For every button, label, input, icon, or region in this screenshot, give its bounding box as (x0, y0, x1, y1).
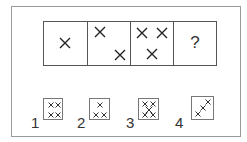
cross-icon (101, 112, 107, 118)
cross-icon (55, 102, 61, 108)
sequence-cell-1 (44, 22, 87, 65)
cross-icon (48, 102, 54, 108)
cross-icon (93, 112, 99, 118)
cross-icon (55, 112, 61, 118)
cross-icon (146, 48, 158, 60)
sequence-cell-2 (87, 22, 130, 65)
option-4-box[interactable] (191, 96, 214, 120)
cross-icon (142, 112, 148, 118)
cross-icon (94, 26, 106, 38)
sequence-cell-3 (130, 22, 173, 65)
option-2-box[interactable] (89, 98, 110, 120)
question-mark: ? (174, 33, 216, 53)
option-1-box[interactable] (43, 98, 63, 120)
sequence-cell-4: ? (173, 22, 216, 65)
option-2-number: 2 (77, 115, 85, 130)
sequence-row: ? (43, 21, 217, 66)
cross-icon (59, 37, 71, 49)
option-3-number: 3 (126, 115, 134, 130)
option-3-box[interactable] (138, 98, 159, 120)
cross-icon (150, 112, 156, 118)
cross-icon (48, 112, 54, 118)
option-4-number: 4 (175, 115, 183, 130)
cross-icon (114, 49, 126, 61)
cross-icon (195, 111, 201, 117)
cross-icon (136, 27, 148, 39)
cross-icon (97, 102, 103, 108)
option-1-number: 1 (31, 115, 39, 130)
cross-icon (156, 27, 168, 39)
